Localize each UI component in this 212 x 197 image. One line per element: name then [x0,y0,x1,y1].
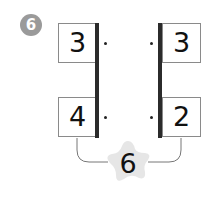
left-bottom-dot [104,116,107,119]
left-divider-bar [95,23,99,138]
right-top-dot [150,42,153,45]
left-bottom-number-box: 4 [58,97,97,137]
left-top-dot [104,42,107,45]
right-top-number-box: 3 [162,23,201,63]
star-result-value: 6 [106,147,150,181]
right-bottom-dot [150,116,153,119]
right-bottom-number-box: 2 [162,97,201,137]
left-top-number-box: 3 [58,23,97,63]
